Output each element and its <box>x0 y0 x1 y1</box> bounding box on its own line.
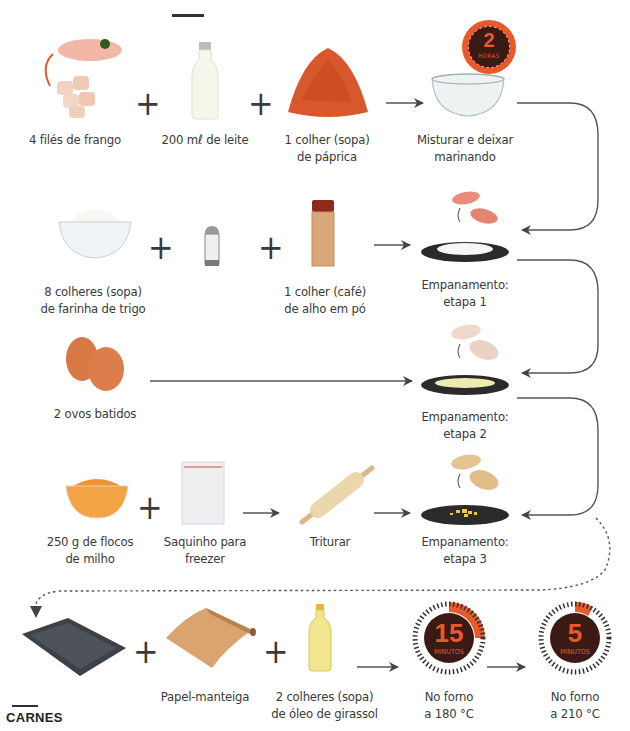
timer-unit: HORAS <box>462 52 516 59</box>
label-garlic: 1 colher (café) de alho em pó <box>270 283 380 317</box>
label-line: etapa 2 <box>400 425 530 442</box>
label-freezer-bag: Saquinho para freezer <box>155 533 255 567</box>
label-line: Saquinho para <box>155 533 255 550</box>
label-line: 4 filés de frango <box>29 132 121 147</box>
flour-plate-icon <box>420 238 510 264</box>
label-line: de farinha de trigo <box>28 300 158 317</box>
label-line: Triturar <box>310 534 350 549</box>
timer-value: 5 <box>537 620 613 646</box>
timer-value: 15 <box>411 620 487 646</box>
rolling-pin-icon <box>296 464 378 526</box>
label-line: de páprica <box>272 148 382 165</box>
label-paprika: 1 colher (sopa) de páprica <box>272 131 382 165</box>
label-line: 8 colheres (sopa) <box>28 283 158 300</box>
label-line: marinando <box>400 148 530 165</box>
label-line: 1 colher (café) <box>270 283 380 300</box>
label-oven-180: No forno a 180 °C <box>400 688 498 722</box>
label-step2: Empanamento: etapa 2 <box>400 408 530 442</box>
section-footer: CARNES <box>6 710 63 725</box>
salt-shaker-icon <box>202 224 222 268</box>
label-line: Empanamento: <box>400 276 530 293</box>
glass-bowl-icon <box>428 70 508 120</box>
label-marinate: Misturar e deixar marinando <box>400 131 530 165</box>
label-chicken: 4 filés de frango <box>15 131 135 148</box>
egg-plate-icon <box>420 372 510 398</box>
label-oil: 2 colheres (sopa) de óleo de girassol <box>262 688 387 722</box>
label-line: 1 colher (sopa) <box>272 131 382 148</box>
label-line: No forno <box>526 688 624 705</box>
label-line: 2 colheres (sopa) <box>262 688 387 705</box>
timer-value: 2 <box>462 30 516 50</box>
label-parchment: Papel-manteiga <box>150 688 260 705</box>
label-step1: Empanamento: etapa 1 <box>400 276 530 310</box>
label-line: 250 g de flocos <box>35 533 145 550</box>
label-corn-flakes: 250 g de flocos de milho <box>35 533 145 567</box>
corn-flakes-bowl-icon <box>64 470 130 520</box>
label-milk: 200 mℓ de leite <box>155 131 255 148</box>
chicken-pieces-icon <box>444 452 504 496</box>
label-line: etapa 1 <box>400 293 530 310</box>
milk-bottle-icon <box>188 40 222 120</box>
chicken-fillet-icon <box>35 36 130 121</box>
plus-icon: + <box>263 636 287 666</box>
label-line: freezer <box>155 550 255 567</box>
top-divider <box>172 14 204 17</box>
parchment-roll-icon <box>156 604 256 670</box>
timer-2-horas: 2 HORAS <box>462 20 516 74</box>
freezer-bag-icon <box>180 460 226 526</box>
oil-bottle-icon <box>306 602 334 672</box>
label-line: Misturar e deixar <box>400 131 530 148</box>
label-eggs: 2 ovos batidos <box>40 405 150 422</box>
label-line: 2 ovos batidos <box>54 406 137 421</box>
footer-divider <box>12 705 38 707</box>
timer-15-minutes: 15 MINUTOS <box>411 600 487 676</box>
label-line: de alho em pó <box>270 300 380 317</box>
plus-icon: + <box>133 636 157 666</box>
timer-5-minutes: 5 MINUTOS <box>537 600 613 676</box>
label-line: Empanamento: <box>400 533 530 550</box>
plus-icon: + <box>258 232 282 262</box>
label-line: Papel-manteiga <box>161 689 250 704</box>
plus-icon: + <box>137 492 161 522</box>
label-line: 200 mℓ de leite <box>162 132 249 147</box>
label-oven-210: No forno a 210 °C <box>526 688 624 722</box>
label-line: de óleo de girassol <box>262 705 387 722</box>
label-crush: Triturar <box>280 533 380 550</box>
label-step3: Empanamento: etapa 3 <box>400 533 530 567</box>
label-line: Empanamento: <box>400 408 530 425</box>
paprika-powder-icon <box>282 40 374 120</box>
timer-unit: MINUTOS <box>537 648 613 656</box>
eggs-icon <box>60 335 130 393</box>
label-line: de milho <box>35 550 145 567</box>
timer-unit: MINUTOS <box>411 648 487 656</box>
chicken-pieces-icon <box>444 322 504 366</box>
plus-icon: + <box>248 88 272 118</box>
baking-tray-icon <box>18 616 128 678</box>
plus-icon: + <box>135 88 159 118</box>
flour-bowl-icon <box>55 198 135 260</box>
chicken-pieces-icon <box>444 190 504 230</box>
label-line: a 180 °C <box>400 705 498 722</box>
crumbs-plate-icon <box>420 502 510 528</box>
garlic-powder-jar-icon <box>309 198 337 268</box>
label-line: etapa 3 <box>400 550 530 567</box>
label-flour: 8 colheres (sopa) de farinha de trigo <box>28 283 158 317</box>
label-line: No forno <box>400 688 498 705</box>
label-line: a 210 °C <box>526 705 624 722</box>
plus-icon: + <box>148 232 172 262</box>
